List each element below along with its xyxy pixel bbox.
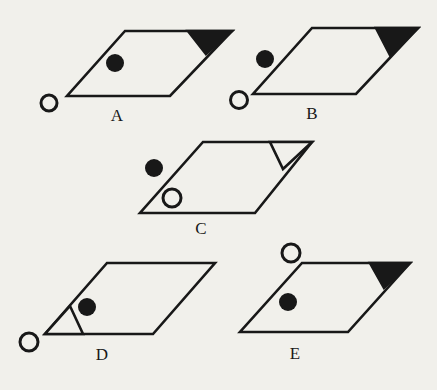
parallelogram-figure: ABCDE [0,0,437,390]
filled-dot-B [256,50,274,68]
filled-dot-A [106,54,124,72]
shape-label-A: A [111,106,124,125]
filled-dot-C [145,159,163,177]
shape-label-C: C [195,219,206,238]
open-dot-C [163,189,181,207]
shape-label-E: E [290,344,300,363]
shape-label-D: D [96,345,108,364]
figure-page: ABCDE [0,0,437,390]
shape-label-B: B [306,104,317,123]
open-dot-E [282,244,300,262]
open-dot-D [20,333,38,351]
open-dot-B [231,92,248,109]
filled-dot-E [279,293,297,311]
open-dot-A [41,95,57,111]
filled-dot-D [78,298,96,316]
